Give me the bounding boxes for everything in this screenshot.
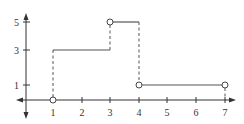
y-tick-labels: 5 3 1 — [14, 17, 19, 91]
y-tick-label: 3 — [14, 45, 19, 56]
x-tick-label: 7 — [223, 107, 228, 118]
x-tick-label: 1 — [51, 107, 56, 118]
y-axis-up-arrow-icon — [24, 13, 29, 20]
y-tick-label: 1 — [14, 80, 19, 91]
step-segments — [53, 22, 222, 85]
open-point-icon — [107, 19, 113, 25]
open-point-icon — [136, 82, 142, 88]
step-function-chart: 1 2 3 4 5 6 7 5 3 1 — [0, 0, 244, 124]
x-tick-label: 2 — [80, 107, 85, 118]
x-axis-right-arrow-icon — [229, 98, 236, 103]
x-axis-left-arrow-icon — [16, 98, 23, 103]
x-tick-labels: 1 2 3 4 5 6 7 — [51, 107, 228, 118]
x-tick-label: 6 — [194, 107, 199, 118]
open-point-icon — [222, 82, 228, 88]
open-point-icon — [50, 97, 56, 103]
y-axis-down-arrow-icon — [24, 112, 29, 119]
y-tick-label: 5 — [14, 17, 19, 28]
x-tick-label: 4 — [137, 107, 142, 118]
x-tick-label: 5 — [165, 107, 170, 118]
x-tick-label: 3 — [108, 107, 113, 118]
axis-arrows — [16, 13, 236, 119]
